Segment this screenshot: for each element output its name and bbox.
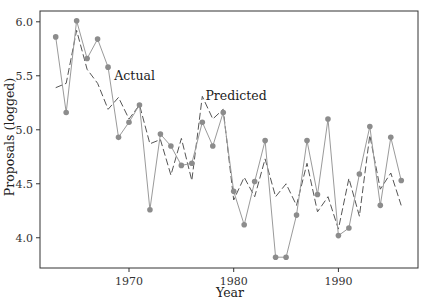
data-point-marker — [294, 212, 300, 218]
data-point-marker — [220, 110, 226, 116]
data-point-marker — [388, 135, 394, 141]
data-point-marker — [158, 131, 164, 137]
data-point-marker — [304, 138, 310, 144]
data-point-marker — [241, 222, 247, 228]
x-axis-title: Year — [215, 285, 244, 300]
data-point-marker — [346, 225, 352, 231]
data-point-marker — [273, 254, 279, 260]
data-point-marker — [147, 207, 153, 213]
data-point-marker — [63, 110, 69, 116]
line-chart: 4.04.55.05.56.0 197019801990 ActualPredi… — [0, 0, 422, 304]
data-point-marker — [116, 135, 122, 141]
actual-line — [56, 21, 402, 258]
plot-frame — [40, 11, 418, 268]
y-tick-label: 5.0 — [16, 124, 34, 137]
actual-series — [53, 18, 404, 260]
data-point-marker — [74, 18, 80, 24]
y-tick-label: 6.0 — [16, 16, 34, 29]
data-point-marker — [325, 116, 331, 122]
data-point-marker — [126, 119, 132, 125]
y-axis: 4.04.55.05.56.0 — [16, 16, 41, 245]
x-tick-label: 1990 — [324, 275, 352, 288]
data-point-marker — [199, 119, 205, 125]
data-point-marker — [210, 143, 216, 149]
data-point-marker — [137, 102, 143, 108]
data-point-marker — [336, 233, 342, 239]
data-point-marker — [357, 171, 363, 177]
data-point-marker — [262, 138, 268, 144]
plot-border — [40, 11, 418, 268]
annotations: ActualPredicted — [113, 68, 266, 104]
x-tick-label: 1970 — [115, 275, 143, 288]
data-point-marker — [53, 34, 59, 40]
predicted-line — [56, 30, 402, 229]
data-point-marker — [95, 36, 101, 42]
annotation-actual: Actual — [113, 68, 155, 83]
predicted-series — [56, 30, 402, 229]
data-point-marker — [168, 143, 174, 149]
data-point-marker — [367, 124, 373, 130]
data-point-marker — [231, 189, 237, 195]
data-point-marker — [105, 64, 111, 70]
data-point-marker — [179, 163, 185, 169]
data-point-marker — [84, 56, 90, 62]
data-point-marker — [252, 179, 258, 185]
y-axis-title: Proposals (logged) — [2, 78, 17, 196]
data-point-marker — [378, 203, 384, 209]
annotation-predicted: Predicted — [205, 88, 266, 103]
y-tick-label: 4.5 — [16, 178, 34, 191]
y-tick-label: 5.5 — [16, 70, 34, 83]
data-point-marker — [398, 178, 404, 184]
y-tick-label: 4.0 — [16, 232, 34, 245]
data-point-marker — [315, 192, 321, 198]
data-point-marker — [283, 254, 289, 260]
data-point-marker — [189, 160, 195, 166]
